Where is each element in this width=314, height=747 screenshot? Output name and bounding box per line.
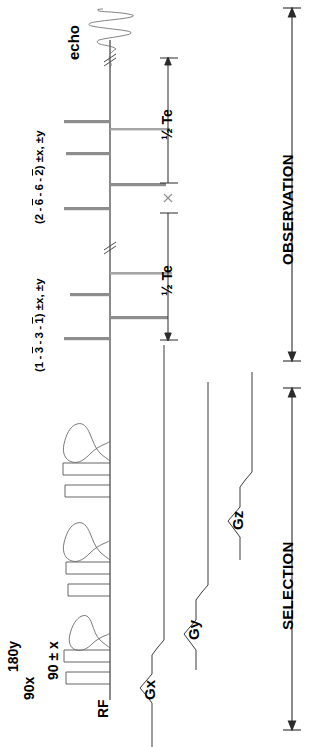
pulse-sequence-figure: RF 90x 180y 90 ± x echo (1 - 3 - 3 - 1) … [0, 0, 314, 747]
selection-bracket-label: SELECTION [280, 541, 295, 630]
gz-channel [228, 372, 252, 560]
diagram-canvas [0, 0, 314, 747]
gy-channel-label: Gy [186, 620, 201, 640]
rf-channel-label: RF [96, 699, 110, 718]
half-te-label-lower: ½ Te [160, 265, 174, 296]
observation-bracket-label: OBSERVATION [280, 154, 295, 265]
break-cross-marker [164, 194, 172, 202]
phase-cycle-1-label: (1 - 3 - 3 - 1) ±x, ±y [34, 278, 46, 372]
rf-sinc-pulses [63, 424, 110, 651]
half-te-label-upper: ½ Te [160, 109, 174, 140]
pulse-label-180y: 180y [6, 641, 20, 672]
phase-cycle-2-label: (2 - 6 - 6 - 2) ±x, ±y [34, 130, 46, 224]
rf-selection-rects [63, 463, 110, 684]
echo-signal [89, 9, 134, 67]
phase-cycle-1-text: (1 - 3 - 3 - 1) ±x, ±y [33, 278, 45, 372]
gz-channel-label: Gz [230, 511, 245, 530]
gx-channel-label: Gx [142, 680, 157, 700]
echo-label: echo [66, 25, 81, 60]
rf-observation-bars [64, 120, 172, 340]
rf-channel [63, 9, 172, 700]
pulse-label-90-pm-x: 90 ± x [46, 641, 60, 680]
pulse-label-90x: 90x [22, 677, 36, 700]
phase-cycle-2-text: (2 - 6 - 6 - 2) ±x, ±y [33, 130, 45, 224]
